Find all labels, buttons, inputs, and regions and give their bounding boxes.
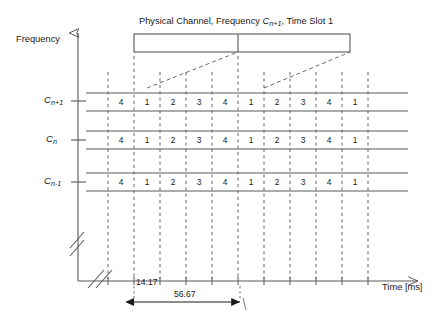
burst-cell: 4	[108, 178, 134, 186]
burst-cell: 3	[290, 178, 316, 186]
burst-cell: 4	[212, 136, 238, 144]
burst-cell: 4	[212, 178, 238, 186]
burst-cell: 4	[108, 136, 134, 144]
frame-duration-label: 56.67	[174, 290, 196, 299]
burst-cell: 3	[290, 136, 316, 144]
burst-cell: 2	[160, 136, 186, 144]
channel-base: C	[44, 175, 51, 186]
burst-cell: 4	[316, 136, 342, 144]
burst-cell: 1	[238, 98, 264, 106]
channel-label-n-plus-1: Cn+1	[44, 95, 63, 105]
burst-cell: 1	[238, 178, 264, 186]
burst-cell: 1	[342, 136, 368, 144]
burst-cell: 3	[186, 136, 212, 144]
channel-subscript: n+1	[51, 98, 63, 107]
burst-cell: 2	[264, 178, 290, 186]
axis-break-icon	[70, 232, 112, 288]
title-prefix: Physical Channel, Frequency	[139, 16, 263, 26]
burst-cell: 2	[160, 98, 186, 106]
channel-label-n-minus-1: Cn-1	[44, 176, 61, 186]
burst-cell: 1	[134, 136, 160, 144]
diagram-root: Physical Channel, Frequency Cn+1, Time S…	[0, 0, 436, 320]
burst-cell: 2	[160, 178, 186, 186]
burst-cell: 1	[342, 178, 368, 186]
dimension-tail-icon	[243, 298, 246, 310]
channel-label-n: Cn	[46, 134, 57, 144]
axis-group	[78, 33, 418, 281]
channel-base: C	[44, 94, 51, 105]
channel-subscript: n-1	[51, 179, 61, 188]
burst-cell: 3	[186, 178, 212, 186]
time-axis-label: Time [ms]	[382, 283, 422, 292]
burst-cell: 1	[342, 98, 368, 106]
diagram-canvas	[0, 0, 436, 320]
burst-cell: 3	[186, 98, 212, 106]
burst-cell: 4	[316, 178, 342, 186]
burst-cell: 4	[316, 98, 342, 106]
burst-cell: 2	[264, 98, 290, 106]
time-gridline-group	[108, 56, 368, 279]
frequency-axis-label: Frequency	[16, 35, 60, 44]
burst-cell: 4	[212, 98, 238, 106]
burst-cell: 4	[108, 98, 134, 106]
title-suffix: , Time Slot 1	[281, 16, 333, 26]
burst-cell: 1	[134, 98, 160, 106]
channel-base: C	[46, 133, 53, 144]
callout-box	[134, 34, 350, 52]
slot-duration-label: 14.17	[136, 278, 158, 287]
page-title: Physical Channel, Frequency Cn+1, Time S…	[139, 17, 333, 26]
burst-cell: 1	[238, 136, 264, 144]
burst-cell: 1	[134, 178, 160, 186]
burst-cell: 2	[264, 136, 290, 144]
dashed-leader-icon	[147, 52, 350, 88]
burst-cell: 3	[290, 98, 316, 106]
channel-subscript: n	[53, 137, 57, 146]
title-channel-sub: n+1	[269, 19, 281, 28]
